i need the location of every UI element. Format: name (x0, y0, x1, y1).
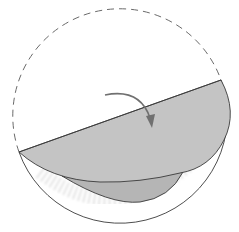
folding-diagram (0, 0, 239, 232)
folded-flap (19, 80, 230, 182)
